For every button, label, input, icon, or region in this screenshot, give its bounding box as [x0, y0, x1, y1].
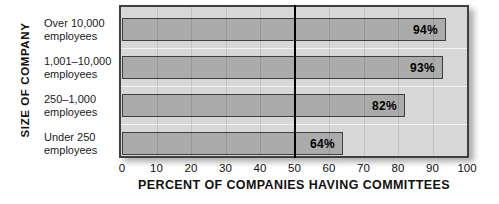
gridline-90: [433, 7, 434, 156]
category-label-line: Over 10,000: [44, 17, 118, 30]
bar-value-label: 94%: [413, 23, 438, 37]
x-axis-title: PERCENT OF COMPANIES HAVING COMMITTEES: [119, 178, 469, 192]
bar-value-label: 82%: [372, 99, 397, 113]
gridline-40: [260, 7, 261, 156]
gridline-70: [364, 7, 365, 156]
y-axis-title: SIZE OF COMPANY: [19, 0, 31, 160]
plot-area: 94%93%82%64%: [119, 5, 469, 158]
bar: 64%: [122, 132, 343, 155]
reference-line-50: [294, 5, 296, 158]
bar-value-label: 93%: [410, 61, 435, 75]
category-label: 1,001–10,000employees: [44, 55, 118, 81]
category-label: Under 250employees: [44, 131, 118, 157]
category-label-line: employees: [44, 144, 118, 157]
category-label-line: Under 250: [44, 131, 118, 144]
category-label-line: 250–1,000: [44, 93, 118, 106]
category-label-line: employees: [44, 68, 118, 81]
bar: 93%: [122, 56, 443, 79]
x-tick-label: 100: [447, 162, 487, 174]
gridline-80: [398, 7, 399, 156]
plot-inner: 94%93%82%64%: [121, 7, 467, 156]
category-label-line: 1,001–10,000: [44, 55, 118, 68]
category-label-line: employees: [44, 106, 118, 119]
gridline-30: [226, 7, 227, 156]
gridline-10: [157, 7, 158, 156]
gridline-60: [329, 7, 330, 156]
category-label: Over 10,000employees: [44, 17, 118, 43]
bar-value-label: 64%: [310, 137, 335, 151]
gridline-20: [191, 7, 192, 156]
bar-chart: SIZE OF COMPANY Over 10,000employees1,00…: [0, 0, 499, 204]
category-label: 250–1,000employees: [44, 93, 118, 119]
category-label-line: employees: [44, 30, 118, 43]
